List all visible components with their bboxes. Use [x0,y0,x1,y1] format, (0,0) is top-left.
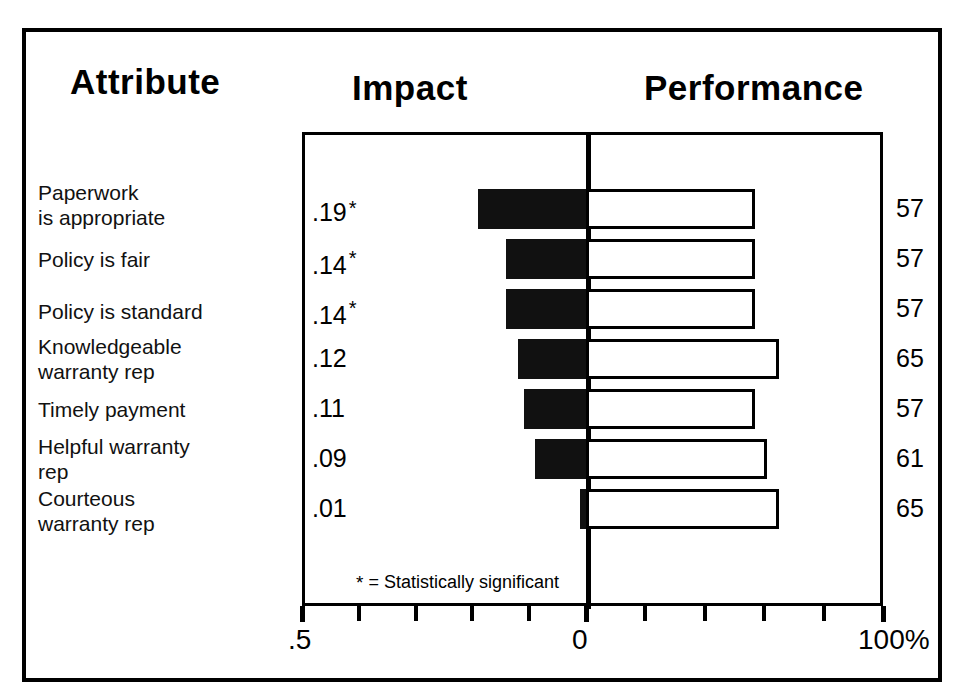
impact-value: .01 [312,496,402,521]
axis-tick [357,606,361,621]
attribute-label-line: warranty rep [38,511,293,536]
impact-number: .14 [312,251,347,279]
impact-value: .11 [312,396,402,421]
axis-tick [703,606,707,621]
chart-row: Policy is standard.14*57 [0,289,964,339]
performance-bar [586,389,755,429]
impact-number: .14 [312,301,347,329]
impact-bar [506,289,586,329]
performance-bar [586,339,779,379]
axis-tick [527,606,531,621]
axis-tick [881,606,886,622]
axis-tick [643,606,647,621]
chart-row: Timely payment.1157 [0,389,964,439]
attribute-label: Timely payment [38,397,293,422]
attribute-label-line: Paperwork [38,180,293,205]
impact-value: .12 [312,346,402,371]
attribute-label: Courteouswarranty rep [38,486,293,536]
attribute-label: Helpful warrantyrep [38,434,293,484]
impact-bar [478,189,586,229]
chart-row: Knowledgeablewarranty rep.1265 [0,339,964,389]
performance-value: 57 [896,296,956,321]
impact-bar [506,239,586,279]
attribute-label: Policy is fair [38,247,293,272]
chart-row: Courteouswarranty rep.0165 [0,489,964,539]
impact-bar [524,389,586,429]
axis-tick-marks [302,606,883,622]
chart-row: Paperworkis appropriate.19*57 [0,189,964,239]
impact-value: .19* [312,196,402,225]
attribute-label-line: is appropriate [38,205,293,230]
performance-value: 57 [896,246,956,271]
impact-number: .09 [312,444,347,472]
impact-bar [518,339,586,379]
axis-tick [470,606,474,621]
footnote-text: = Statistically significant [368,572,559,592]
performance-bar [586,439,767,479]
asterisk-icon: * [356,572,363,593]
impact-number: .12 [312,344,347,372]
performance-value: 61 [896,446,956,471]
attribute-label: Paperworkis appropriate [38,180,293,230]
attribute-label-line: rep [38,459,293,484]
axis-tick [414,606,418,621]
performance-bar [586,289,755,329]
significance-asterisk: * [349,297,357,319]
impact-value: .14* [312,246,402,278]
chart-page: Attribute Impact Performance Paperworkis… [0,0,964,700]
attribute-label-line: Knowledgeable [38,334,293,359]
chart-row: Helpful warrantyrep.0961 [0,439,964,489]
axis-tick [762,606,766,621]
chart-rows: Paperworkis appropriate.19*57Policy is f… [0,0,964,700]
axis-label-left: .5 [288,626,311,654]
performance-value: 57 [896,396,956,421]
significance-asterisk: * [349,197,357,219]
attribute-label-line: warranty rep [38,359,293,384]
attribute-label-line: Policy is fair [38,247,293,272]
axis-tick [584,606,589,622]
axis-tick [822,606,826,621]
impact-bar [535,439,586,479]
performance-value: 57 [896,196,956,221]
chart-row: Policy is fair.14*57 [0,239,964,289]
significance-footnote: * = Statistically significant [356,572,559,594]
attribute-label-line: Timely payment [38,397,293,422]
performance-value: 65 [896,346,956,371]
attribute-label: Knowledgeablewarranty rep [38,334,293,384]
attribute-label-line: Policy is standard [38,299,293,324]
impact-number: .01 [312,494,347,522]
impact-number: .11 [312,394,345,422]
attribute-label-line: Courteous [38,486,293,511]
attribute-label: Policy is standard [38,299,293,324]
impact-number: .19 [312,198,347,226]
performance-bar [586,239,755,279]
performance-bar [586,489,779,529]
attribute-label-line: Helpful warranty [38,434,293,459]
impact-value: .09 [312,446,402,471]
axis-label-right: 100% [858,626,930,654]
impact-value: .14* [312,296,402,328]
axis-tick [300,606,305,622]
axis-label-center: 0 [572,626,588,654]
significance-asterisk: * [349,247,357,269]
performance-bar [586,189,755,229]
performance-value: 65 [896,496,956,521]
